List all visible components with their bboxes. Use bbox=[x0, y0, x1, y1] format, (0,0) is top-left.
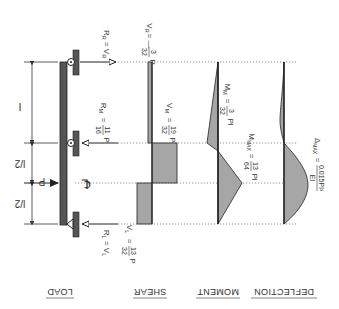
load-title: LOAD bbox=[47, 287, 73, 297]
centerline-symbol: ℄ bbox=[81, 177, 91, 192]
svg-text:19: 19 bbox=[170, 126, 177, 134]
deflection-region-main bbox=[284, 143, 308, 224]
svg-text:11: 11 bbox=[104, 126, 111, 133]
deflection-label-max: ΔMAX = 0.015Pl³ EI bbox=[309, 138, 325, 192]
svg-text:3: 3 bbox=[150, 50, 157, 54]
svg-text:0.015Pl³: 0.015Pl³ bbox=[318, 165, 325, 192]
shear-region-mid bbox=[152, 143, 177, 183]
shear-label-middle: VM = 19 32 P bbox=[161, 103, 177, 143]
svg-text:P: P bbox=[128, 258, 137, 263]
point-load-arrow: P bbox=[24, 176, 59, 187]
shear-label-left: VL = 13 32 P bbox=[121, 225, 137, 264]
svg-text:32: 32 bbox=[161, 126, 168, 134]
svg-text:=: = bbox=[313, 158, 322, 163]
svg-text:MM: MM bbox=[222, 83, 232, 95]
svg-text:=: = bbox=[125, 239, 134, 244]
roller-support-right bbox=[68, 50, 80, 75]
svg-text:32: 32 bbox=[219, 107, 226, 115]
svg-text:32: 32 bbox=[141, 48, 148, 56]
svg-text:RL = VL: RL = VL bbox=[101, 230, 111, 256]
svg-text:13: 13 bbox=[130, 247, 137, 255]
svg-text:VM: VM bbox=[164, 103, 174, 113]
shear-region-left bbox=[137, 183, 152, 224]
dimension-lines bbox=[24, 62, 58, 224]
shear-label-right: VR = — 3 32 P bbox=[141, 23, 157, 64]
deflection-title: DEFLECTION bbox=[254, 287, 314, 297]
shear-title: SHEAR bbox=[134, 287, 167, 297]
svg-text:3: 3 bbox=[228, 109, 235, 113]
moment-label-middle: MM = 3 32 Pl bbox=[219, 83, 235, 125]
svg-text:EI: EI bbox=[309, 175, 316, 182]
dimension-labels: l l/2 l/2 bbox=[14, 101, 25, 209]
beam bbox=[60, 62, 67, 225]
svg-text:P: P bbox=[148, 59, 157, 64]
load-panel: l l/2 l/2 P ℄ bbox=[14, 30, 118, 256]
panel-titles: LOAD SHEAR MOMENT DEFLECTION bbox=[46, 287, 317, 298]
svg-text:P: P bbox=[168, 137, 177, 142]
svg-text:32: 32 bbox=[121, 247, 128, 255]
moment-region-positive bbox=[218, 151, 242, 224]
svg-text:Pl: Pl bbox=[226, 118, 235, 125]
reaction-label-right: RR = VR bbox=[101, 30, 111, 58]
svg-text:=: = bbox=[99, 118, 108, 123]
svg-text:RR = VR: RR = VR bbox=[101, 30, 111, 58]
load-label: P bbox=[38, 176, 45, 187]
pin-support-left bbox=[67, 212, 79, 237]
reaction-label-middle: RM = 11 16 P bbox=[95, 103, 111, 143]
svg-text:= —: = — bbox=[145, 34, 154, 49]
svg-text:P: P bbox=[102, 137, 111, 142]
half-span-dim-label-2: l/2 bbox=[14, 198, 25, 209]
reaction-label-left: RL = VL bbox=[101, 230, 111, 256]
svg-text:64: 64 bbox=[243, 162, 250, 170]
svg-text:RM: RM bbox=[98, 103, 108, 114]
overhang-dim-label: l bbox=[19, 101, 21, 113]
shear-panel: VR = — 3 32 P VM = 19 32 P VL = 13 bbox=[121, 23, 177, 263]
moment-label-max: MMAX = 13 64 Pl bbox=[243, 133, 259, 181]
roller-support-middle bbox=[68, 131, 80, 156]
svg-text:16: 16 bbox=[95, 126, 102, 134]
svg-text:13: 13 bbox=[252, 162, 259, 170]
moment-title: MOMENT bbox=[197, 287, 239, 297]
svg-text:MMAX: MMAX bbox=[246, 133, 256, 151]
moment-region-negative bbox=[207, 62, 218, 151]
svg-text:VR: VR bbox=[144, 23, 154, 32]
svg-text:=: = bbox=[247, 154, 256, 159]
svg-text:=: = bbox=[165, 118, 174, 123]
svg-text:Pl: Pl bbox=[250, 173, 259, 180]
half-span-dim-label-1: l/2 bbox=[14, 158, 25, 169]
svg-text:=: = bbox=[223, 99, 232, 104]
beam-diagram: l l/2 l/2 P ℄ bbox=[0, 0, 339, 309]
svg-text:VL: VL bbox=[124, 225, 134, 233]
svg-text:ΔMAX: ΔMAX bbox=[312, 138, 322, 155]
